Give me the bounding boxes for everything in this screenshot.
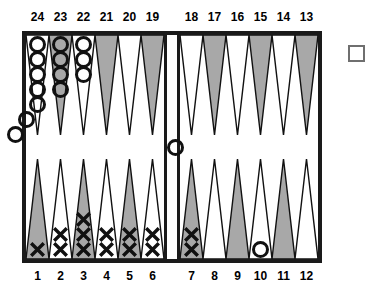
point-number-11: 11 <box>272 268 296 284</box>
point-11[interactable] <box>272 159 295 259</box>
backgammon-board-screenshot: 242322212019 181716151413 <box>0 0 377 293</box>
point-number-7: 7 <box>180 268 204 284</box>
point-number-10: 10 <box>249 268 273 284</box>
checker-white-point-24[interactable] <box>7 126 24 143</box>
point-number-12: 12 <box>295 268 319 284</box>
checker-dark-point-1[interactable] <box>29 241 46 258</box>
point-8[interactable] <box>203 159 226 259</box>
point-number-24: 24 <box>26 9 50 25</box>
checker-dark-point-2[interactable] <box>52 241 69 258</box>
point-12[interactable] <box>295 159 318 259</box>
point-number-6: 6 <box>141 268 165 284</box>
checker-dark-point-5[interactable] <box>121 241 138 258</box>
checker-dark-point-3[interactable] <box>75 211 92 228</box>
point-number-9: 9 <box>226 268 250 284</box>
quadrant-bottom-right <box>180 35 318 259</box>
point-number-2: 2 <box>49 268 73 284</box>
point-number-4: 4 <box>95 268 119 284</box>
point-number-22: 22 <box>72 9 96 25</box>
playfield <box>26 35 318 259</box>
doubling-cube[interactable] <box>348 45 365 62</box>
point-number-3: 3 <box>72 268 96 284</box>
point-number-15: 15 <box>249 9 273 25</box>
point-number-17: 17 <box>203 9 227 25</box>
point-number-1: 1 <box>26 268 50 284</box>
checker-dark-point-2[interactable] <box>52 226 69 243</box>
checker-dark-point-3[interactable] <box>75 226 92 243</box>
point-number-16: 16 <box>226 9 250 25</box>
point-number-18: 18 <box>180 9 204 25</box>
checker-dark-point-7[interactable] <box>183 226 200 243</box>
point-number-19: 19 <box>141 9 165 25</box>
checker-dark-point-3[interactable] <box>75 241 92 258</box>
point-number-8: 8 <box>203 268 227 284</box>
checker-dark-point-6[interactable] <box>144 241 161 258</box>
bar[interactable] <box>164 35 180 259</box>
point-number-14: 14 <box>272 9 296 25</box>
point-number-5: 5 <box>118 268 142 284</box>
checker-white-point-10[interactable] <box>252 241 269 258</box>
point-number-23: 23 <box>49 9 73 25</box>
point-number-13: 13 <box>295 9 319 25</box>
checker-dark-point-5[interactable] <box>121 226 138 243</box>
board-frame <box>22 31 322 263</box>
checker-white-on-bar[interactable] <box>167 139 184 156</box>
quadrant-bottom-left <box>26 35 164 259</box>
checker-dark-point-7[interactable] <box>183 241 200 258</box>
point-9[interactable] <box>226 159 249 259</box>
checker-dark-point-4[interactable] <box>98 241 115 258</box>
checker-dark-point-4[interactable] <box>98 226 115 243</box>
point-number-21: 21 <box>95 9 119 25</box>
checker-dark-point-6[interactable] <box>144 226 161 243</box>
point-number-20: 20 <box>118 9 142 25</box>
